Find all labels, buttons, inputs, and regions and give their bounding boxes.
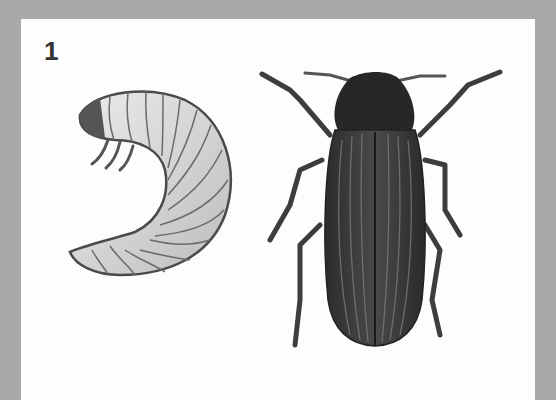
beetle-illustration	[262, 72, 500, 346]
larva-illustration	[70, 91, 231, 275]
illustration	[0, 0, 556, 400]
